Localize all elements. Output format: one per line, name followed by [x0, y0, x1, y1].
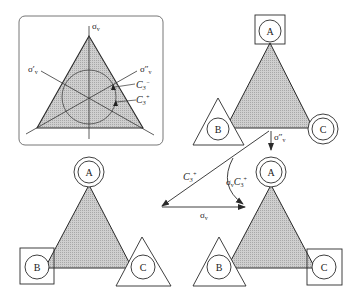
sigma-v-c3-plus-label: σvC3+	[226, 176, 248, 188]
triangle-bottom-right: A B C	[193, 157, 342, 286]
triangle-top-right: A B C	[193, 15, 338, 145]
vertex-a-label: A	[267, 167, 275, 178]
vertex-a-label: A	[85, 167, 93, 178]
vertex-c-label: C	[320, 124, 327, 135]
vertex-a-label: A	[266, 26, 274, 37]
vertex-b-label: B	[215, 124, 222, 135]
vertex-c-label: C	[321, 262, 328, 273]
inset-panel: σv σ′v σ″v C3− C3+	[19, 16, 163, 145]
c3-plus-arrow-label: C3+	[183, 171, 197, 183]
triangle-bottom-left: A B C	[20, 157, 171, 286]
sigma-v-arrow-label: σv	[200, 210, 208, 221]
sigma-v-dprime-arrow-label: σ″v	[274, 132, 286, 143]
vertex-b-label: B	[34, 262, 41, 273]
vertex-c-label: C	[140, 262, 147, 273]
vertex-b-label: B	[216, 262, 223, 273]
triangle-body	[226, 43, 313, 128]
triangle-body	[227, 185, 315, 268]
triangle-body	[45, 185, 132, 268]
symmetry-diagram: σv σ′v σ″v C3− C3+ A B C σ″v C3+ σv σvC3…	[0, 0, 363, 299]
